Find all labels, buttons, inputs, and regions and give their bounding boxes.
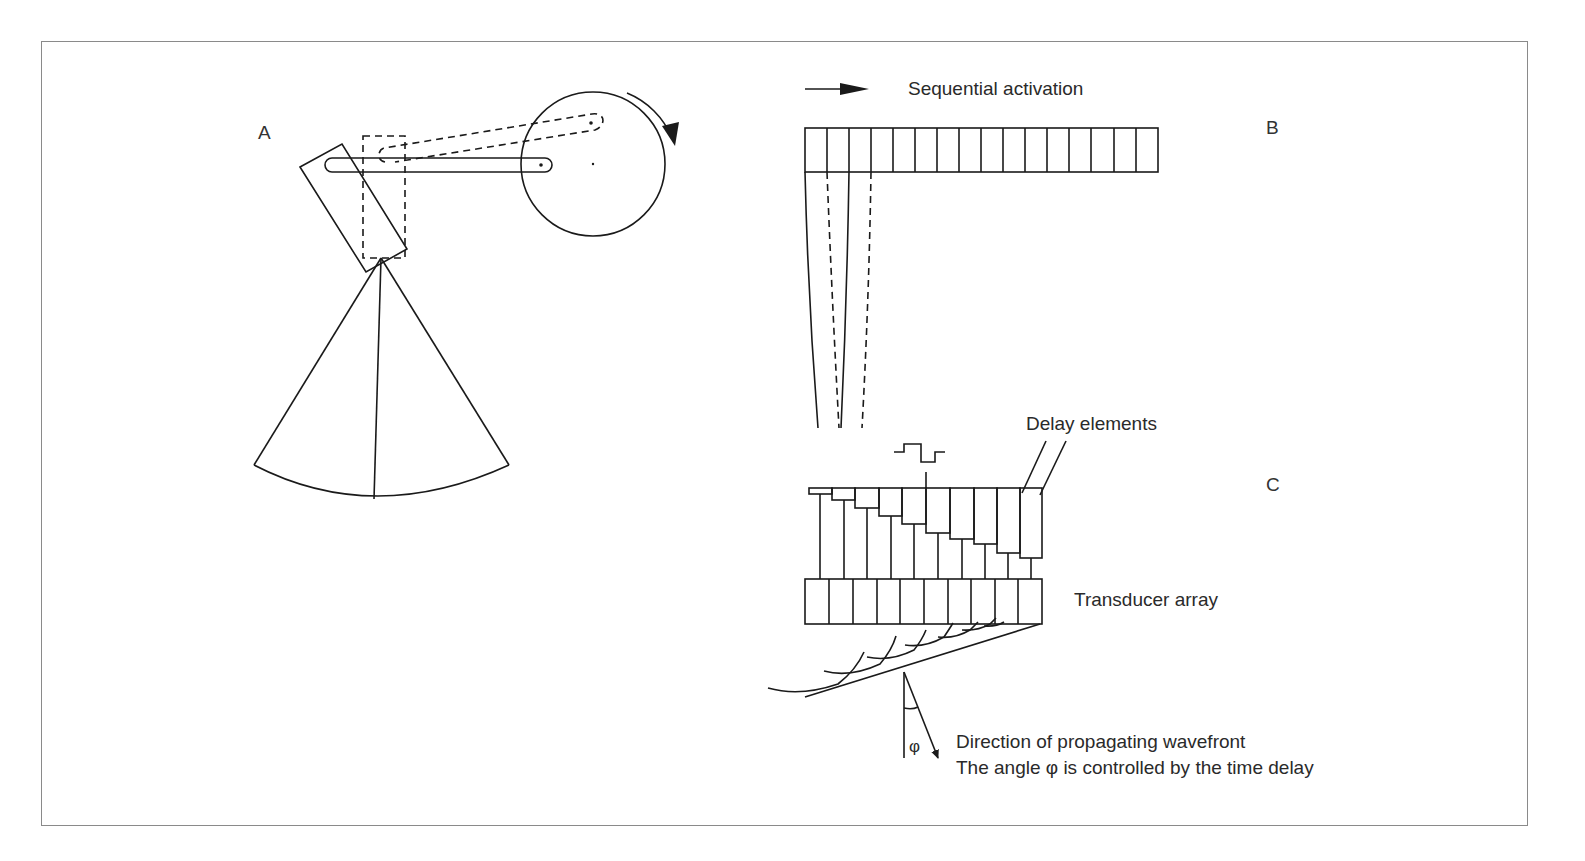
panel-c: C Delay elements bbox=[768, 413, 1314, 778]
delay-pointer-1 bbox=[1022, 441, 1046, 493]
panel-c-label: C bbox=[1266, 474, 1280, 495]
sector-center-line bbox=[374, 258, 381, 499]
crank-arm-alt-position bbox=[379, 114, 603, 162]
pulse-waveform-icon bbox=[894, 444, 945, 462]
direction-caption-line1: Direction of propagating wavefront bbox=[956, 731, 1246, 752]
delay-pointer-2 bbox=[1040, 441, 1066, 495]
sector-left-edge bbox=[254, 258, 381, 465]
angle-arc bbox=[904, 707, 918, 709]
transducer-vertical-alt-position bbox=[363, 136, 405, 258]
linear-array bbox=[805, 128, 1158, 172]
beam-solid-left bbox=[805, 172, 818, 428]
beam-dashed-right bbox=[862, 172, 871, 428]
crank-pin-alt bbox=[589, 121, 593, 125]
transducer-tilted bbox=[300, 144, 407, 272]
wavelets bbox=[768, 618, 1004, 692]
phased-transducer-array bbox=[805, 579, 1042, 624]
diagram-canvas: A B Sequential activation bbox=[0, 0, 1585, 861]
rotation-arrow-icon bbox=[627, 93, 672, 138]
panel-b: B Sequential activation bbox=[805, 78, 1279, 428]
panel-a-label: A bbox=[258, 122, 271, 143]
beam-solid-right bbox=[841, 172, 849, 428]
panel-a: A bbox=[254, 92, 679, 499]
wheel-center-dot bbox=[592, 163, 594, 165]
direction-caption-line2: The angle φ is controlled by the time de… bbox=[956, 757, 1314, 778]
wavefront-line bbox=[805, 624, 1040, 697]
rotation-arrowhead-icon bbox=[662, 122, 679, 146]
sequential-arrow-icon bbox=[840, 83, 869, 95]
panel-b-label: B bbox=[1266, 117, 1279, 138]
sector-right-edge bbox=[381, 258, 509, 465]
crank-pin bbox=[539, 163, 543, 167]
beam-dashed-left bbox=[827, 172, 839, 428]
sector-arc bbox=[254, 465, 509, 496]
delay-elements-label: Delay elements bbox=[1026, 413, 1157, 434]
sequential-activation-label: Sequential activation bbox=[908, 78, 1083, 99]
crank-arm bbox=[325, 158, 552, 172]
phi-symbol: φ bbox=[909, 737, 920, 756]
transducer-array-label: Transducer array bbox=[1074, 589, 1218, 610]
